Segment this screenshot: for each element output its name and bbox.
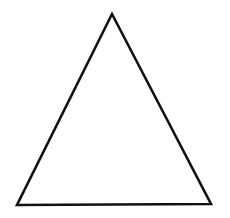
triangle-diagram xyxy=(0,0,230,218)
diagram-canvas xyxy=(0,0,230,218)
triangle-shape xyxy=(17,14,211,205)
